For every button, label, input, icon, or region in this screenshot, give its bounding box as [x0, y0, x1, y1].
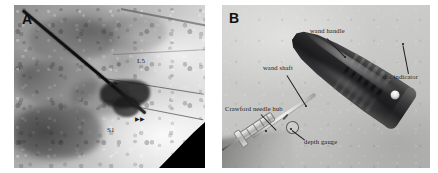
label-depth-gauge: depth gauge: [304, 139, 337, 146]
panel-a-letter: A: [22, 12, 32, 26]
label-crawford-needle-hub: Crawford needle hub: [225, 106, 283, 113]
panel-a-fluoroscopy-image: ▶▶ ▶▶ L5 S1 A: [14, 5, 205, 168]
label-vertebral-level-l5: L5: [137, 57, 145, 65]
panel-b-letter: B: [229, 11, 239, 25]
arrowhead-marker-upper: ▶▶: [109, 81, 118, 87]
figure-container: ▶▶ ▶▶ L5 S1 A: [0, 0, 438, 173]
label-dot-indicator: dot indicator: [383, 74, 418, 81]
label-vertebral-level-s1: S1: [107, 126, 115, 134]
label-wand-shaft: wand shaft: [263, 65, 293, 72]
soft-tissue-shadow: [102, 15, 167, 51]
label-wand-handle: wand handle: [310, 28, 345, 35]
arrowhead-marker-lower: ▶▶: [135, 117, 144, 123]
panel-b-wand-photograph: wand handle dot indicator wand shaft Cra…: [222, 5, 430, 168]
